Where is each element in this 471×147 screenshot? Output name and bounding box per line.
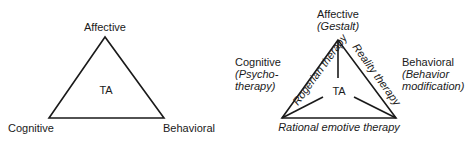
left-left-label: Cognitive <box>8 122 54 134</box>
left-center-label: TA <box>99 84 112 96</box>
right-left-label: Cognitive <box>235 56 281 68</box>
right-right-therapy-2: modification) <box>402 80 464 92</box>
right-right-label: Behavioral <box>402 56 454 68</box>
right-left-therapy-1: (Psycho- <box>235 68 278 80</box>
left-right-label: Behavioral <box>163 122 215 134</box>
left-triangle <box>49 37 164 118</box>
right-top-label: Affective <box>317 8 359 20</box>
left-top-label: Affective <box>84 21 126 33</box>
right-center-label: TA <box>332 85 345 97</box>
right-right-therapy-1: (Behavior <box>402 68 449 80</box>
right-left-therapy-2: therapy) <box>235 80 275 92</box>
edge-label-bottom: Rational emotive therapy <box>278 121 400 133</box>
right-top-therapy: (Gestalt) <box>317 20 359 32</box>
